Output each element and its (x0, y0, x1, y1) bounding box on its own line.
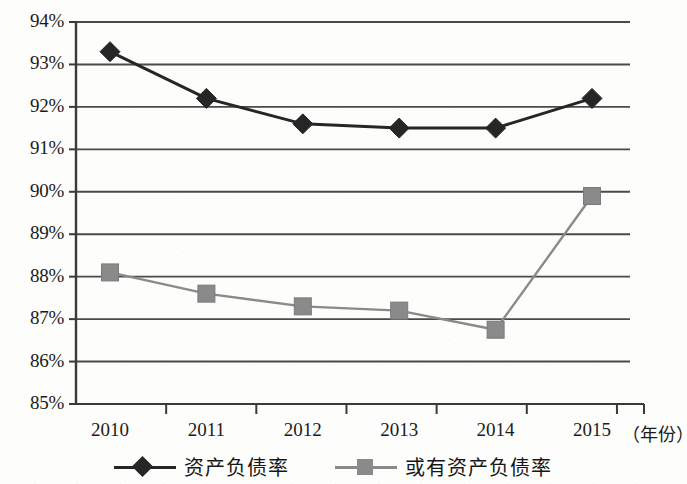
x-axis-tick-label: 2012 (263, 419, 343, 441)
legend-label-primary: 资产负债率 (184, 452, 289, 481)
legend-label-secondary: 或有资产负债率 (405, 452, 552, 481)
y-axis-tick-label: 86% (2, 350, 64, 372)
x-axis-tick-label: 2013 (359, 419, 439, 441)
y-axis-tick-label: 93% (2, 52, 64, 74)
x-axis-tick-label: 2014 (456, 419, 536, 441)
square-marker-icon (335, 457, 397, 477)
y-axis-tick-label: 90% (2, 180, 64, 202)
y-axis-tick-label: 91% (2, 137, 64, 159)
y-axis-tick-label: 89% (2, 222, 64, 244)
y-axis-tick-label: 94% (2, 10, 64, 32)
y-axis-tick-label: 88% (2, 265, 64, 287)
legend-item-secondary: 或有资产负债率 (335, 452, 552, 481)
x-axis-tick-label: 2010 (70, 419, 150, 441)
x-axis-tick-label: 2011 (166, 419, 246, 441)
diamond-marker-icon (114, 457, 176, 477)
x-axis-title: （年份） (622, 420, 687, 446)
y-axis-tick-label: 87% (2, 307, 64, 329)
chart-legend: 资产负债率 或有资产负债率 (0, 452, 665, 481)
y-axis-tick-label: 92% (2, 95, 64, 117)
legend-item-primary: 资产负债率 (114, 452, 289, 481)
x-axis-tick-label: 2015 (552, 419, 632, 441)
data-series (100, 42, 602, 339)
y-axis-tick-label: 85% (2, 392, 64, 414)
gridlines (76, 22, 630, 404)
x-axis-ticks (76, 404, 644, 414)
axes (69, 21, 76, 405)
